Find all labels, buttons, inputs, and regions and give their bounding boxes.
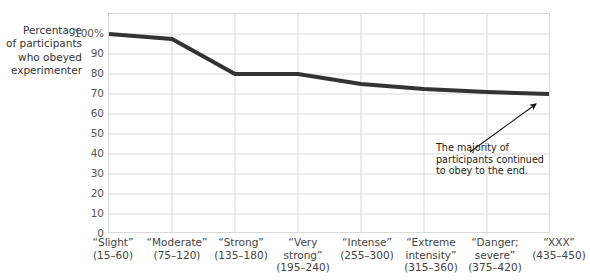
y-tick-50: 50 — [68, 128, 104, 139]
y-tick-100: 100% — [68, 28, 104, 39]
y-tick-80: 80 — [68, 68, 104, 79]
y-tick-60: 60 — [68, 108, 104, 119]
y-tick-10: 10 — [68, 208, 104, 219]
obedience-data-line — [109, 34, 549, 94]
plot-area — [108, 13, 550, 233]
horizontal-gridlines — [109, 34, 549, 214]
y-tick-70: 70 — [68, 88, 104, 99]
y-tick-90: 90 — [68, 48, 104, 59]
x-tick-xxx: “XXX” (435–450) — [516, 236, 590, 261]
x-axis-tick-labels: “Slight” (15–60) “Moderate” (75–120) “St… — [108, 236, 578, 280]
vertical-gridlines — [172, 14, 487, 232]
y-tick-40: 40 — [68, 148, 104, 159]
annotation-note: The majority of participants continued t… — [436, 142, 566, 177]
y-tick-30: 30 — [68, 168, 104, 179]
plot-svg — [109, 14, 549, 232]
y-tick-20: 20 — [68, 188, 104, 199]
